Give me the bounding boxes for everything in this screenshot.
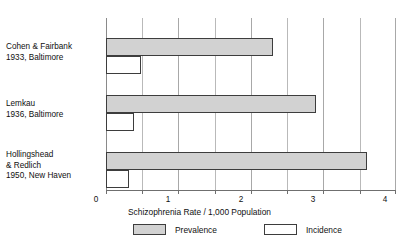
category-label-line: 1950, New Haven bbox=[6, 171, 102, 182]
category-label-hollingshead-redlich: Hollingshead & Redlich 1950, New Haven bbox=[6, 150, 102, 182]
x-tick-2 bbox=[251, 190, 252, 194]
category-label-line: & Redlich bbox=[6, 161, 102, 172]
category-label-line: Hollingshead bbox=[6, 150, 102, 161]
schizophrenia-rate-bar-chart: Cohen & Fairbank 1933, Baltimore Lemkau … bbox=[0, 0, 399, 245]
legend: Prevalence Incidence bbox=[0, 224, 399, 240]
bar-incidence-hollingshead-redlich bbox=[106, 170, 129, 188]
bar-incidence-cohen-fairbank bbox=[106, 56, 141, 74]
x-tick-2-5 bbox=[287, 190, 288, 194]
legend-label-prevalence: Prevalence bbox=[175, 225, 217, 235]
category-label-line: Cohen & Fairbank bbox=[6, 42, 102, 53]
legend-swatch-incidence-icon bbox=[264, 224, 297, 235]
bar-incidence-lemkau bbox=[106, 113, 134, 131]
category-label-cohen-fairbank: Cohen & Fairbank 1933, Baltimore bbox=[6, 42, 102, 63]
x-axis-title: Schizophrenia Rate / 1,000 Population bbox=[0, 207, 399, 217]
x-tick-label-1: 1 bbox=[158, 195, 178, 204]
legend-label-incidence: Incidence bbox=[306, 225, 342, 235]
x-tick-4 bbox=[395, 190, 396, 194]
category-label-line: 1933, Baltimore bbox=[6, 53, 102, 64]
gridline-4 bbox=[395, 18, 396, 190]
x-tick-label-4: 4 bbox=[375, 195, 395, 204]
category-label-line: Lemkau bbox=[6, 99, 102, 110]
x-tick-label-2: 2 bbox=[231, 195, 251, 204]
category-label-line: 1936, Baltimore bbox=[6, 110, 102, 121]
legend-item-incidence: Incidence bbox=[264, 224, 342, 235]
x-tick-0-5 bbox=[142, 190, 143, 194]
x-tick-1 bbox=[178, 190, 179, 194]
x-tick-1-5 bbox=[215, 190, 216, 194]
legend-swatch-prevalence-icon bbox=[133, 224, 166, 235]
bar-prevalence-lemkau bbox=[106, 95, 316, 113]
x-tick-label-0: 0 bbox=[86, 195, 106, 204]
x-tick-label-3: 3 bbox=[303, 195, 323, 204]
x-tick-3 bbox=[323, 190, 324, 194]
plot-area bbox=[106, 18, 396, 190]
bar-prevalence-hollingshead-redlich bbox=[106, 152, 367, 170]
x-tick-3-5 bbox=[360, 190, 361, 194]
legend-item-prevalence: Prevalence bbox=[133, 224, 217, 235]
bar-prevalence-cohen-fairbank bbox=[106, 38, 273, 56]
category-label-lemkau: Lemkau 1936, Baltimore bbox=[6, 99, 102, 120]
x-tick-0 bbox=[106, 190, 107, 194]
